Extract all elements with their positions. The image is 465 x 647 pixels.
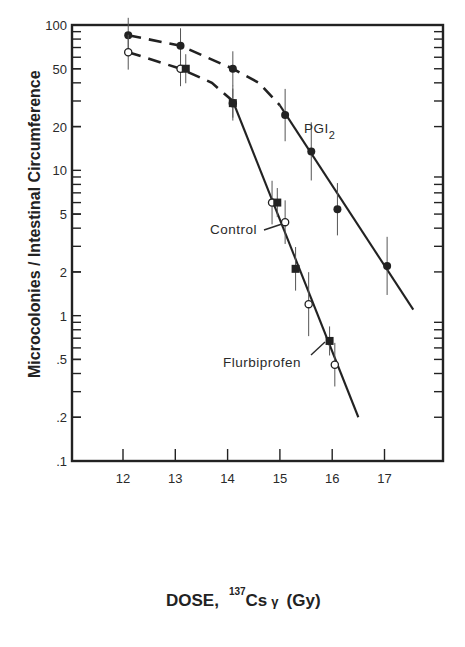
flurbiprofen-label: Flurbiprofen [223,355,301,370]
y-tick-label: 20 [53,120,67,135]
control-point [125,49,132,56]
pgi2-point [333,205,341,213]
x-axis-ticks: 121314151617 [116,449,392,486]
x-axis-title: DOSE,137Csγ(Gy) [166,586,321,610]
y-tick-label: 1 [60,309,67,324]
pgi2-label: PGI2 [304,121,335,141]
dose-response-chart: 100502010521.5.2.1 121314151617 PGI2 Con… [0,0,465,647]
control-point [282,219,289,226]
pgi2-point [307,147,315,155]
pgi2-point [281,111,289,119]
x-tick-label: 16 [325,471,339,486]
x-axis-title-isotope-mass: 137 [229,586,246,597]
y-tick-label: 10 [53,163,67,178]
control-point [305,301,312,308]
flurbiprofen-point [326,337,334,345]
control-point [331,361,338,368]
x-axis-title-isotope: Cs [246,591,268,610]
y-tick-label: .1 [56,454,67,469]
pgi2-label-main: PGI [304,121,329,136]
flurbiprofen-point [229,99,237,107]
x-axis-title-prefix: DOSE, [166,591,219,610]
pgi2-point [383,262,391,270]
pgi2-fit-line [280,105,413,309]
flurbiprofen-point [182,65,190,73]
x-tick-label: 15 [273,471,287,486]
pgi2-point [177,42,185,50]
flurbiprofen-point [273,199,281,207]
y-tick-label: .2 [56,410,67,425]
x-axis-title-gamma: γ [271,594,279,609]
y-axis-ticks: 100502010521.5.2.1 [45,18,443,469]
pgi2-label-subscript: 2 [329,129,336,141]
x-tick-label: 17 [377,471,391,486]
x-axis-title-unit: (Gy) [287,591,321,610]
x-tick-label: 12 [116,471,130,486]
pgi2-point [229,65,237,73]
x-tick-label: 14 [220,471,234,486]
y-axis-title: Microcolonies / Intestinal Circumference [26,70,43,378]
y-tick-label: 5 [60,207,67,222]
pgi2-dashed-fit [128,35,280,105]
y-tick-label: 100 [45,18,67,33]
control-label: Control [210,222,257,237]
y-tick-label: 2 [60,265,67,280]
x-tick-label: 13 [168,471,182,486]
flurbiprofen-point [292,265,300,273]
y-tick-label: .5 [56,352,67,367]
y-tick-label: 50 [53,62,67,77]
control-label-pointer [264,224,282,230]
data-points [124,18,391,387]
flurbiprofen-label-pointer [311,342,325,355]
